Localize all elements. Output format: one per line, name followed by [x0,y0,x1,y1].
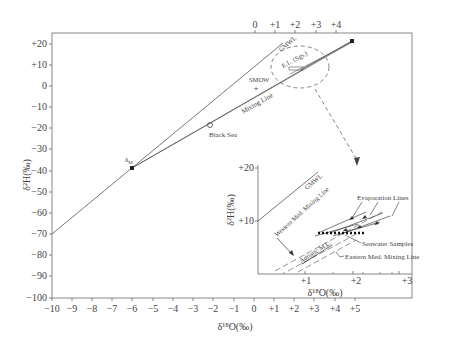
y-tick: −40 [31,165,47,176]
black-sea-label: Black Sea [209,131,238,139]
x-tick: 0 [252,303,257,314]
x-tick-labels: −10 −9 −8 −7 −6 −5 −4 −3 −2 −1 0 +1 +2 +… [44,303,360,314]
y-tick: +10 [31,59,47,70]
x-tick: −1 [229,303,240,314]
x-tick: +5 [350,303,361,314]
x-tick: +4 [330,303,341,314]
adriatic-label: Adriatic M.L. [298,239,332,264]
y-tick: −100 [26,292,47,303]
seawater-samples-label: Seawater Samples [362,240,413,248]
y-tick: −70 [31,228,47,239]
x-tick: −9 [67,303,78,314]
top-tick: +2 [290,19,301,30]
y-tick: −50 [31,186,47,197]
mixing-line-upper [132,42,352,168]
isotope-chart: +20 +10 0 −10 −20 −30 −40 −50 −60 −70 −8… [0,0,455,348]
pointer-arrowhead [289,250,294,256]
x-tick: −7 [107,303,118,314]
zoom-arrow-head [354,157,360,166]
top-tick-labels: 0 +1 +2 +3 +4 [253,19,342,30]
x-tick: −6 [127,303,138,314]
x-tick: −2 [208,303,219,314]
x-tick: +2 [289,303,300,314]
eastern-med-pointer [336,252,344,257]
y-tick: +20 [31,38,47,49]
gmwl-line [52,43,283,234]
inset-y-tick: +10 [238,215,254,226]
top-tick: 0 [253,19,258,30]
delta-m-label: δM [125,156,133,165]
top-tick: +4 [331,19,342,30]
x-tick: −3 [188,303,199,314]
inset-x-axis-title: δ¹⁸O(‰) [307,287,342,299]
adriatic-line [288,232,360,271]
x-axis-title: δ¹⁸O(‰) [217,321,252,333]
evaporation-arrows [343,215,379,231]
top-tick: +1 [270,19,281,30]
evap-pointer-2 [370,202,378,215]
evap-pointer-3 [392,202,399,216]
inset-x-tick: +3 [402,275,413,286]
x-tick: −10 [44,303,60,314]
y-axis-title: δ²H(‰) [21,159,33,191]
smow-label: SMOW [249,76,270,83]
x-tick: −5 [148,303,159,314]
inset-x-tick: +1 [301,275,312,286]
western-med-label: Western Med. Mixing Line [273,185,330,238]
y-tick: −90 [31,270,47,281]
x-tick: −4 [168,303,179,314]
x-tick: +1 [269,303,280,314]
inset-x-tick: +2 [351,275,362,286]
x-tick: −8 [87,303,98,314]
y-tick: −10 [31,101,47,112]
zoom-arrow-line [315,89,357,160]
eastern-med-label: Eastern Med. Mixing Line [345,253,419,261]
western-med-pointer [277,238,292,254]
top-tick: +3 [311,19,322,30]
y-tick: −30 [31,143,47,154]
inset-y-tick: +20 [238,162,254,173]
evaporation-lines-label: Evaporation Lines [357,194,409,202]
smow-marker: + [253,83,258,93]
y-tick: −60 [31,207,47,218]
y-tick: −20 [31,122,47,133]
med-endpoint-marker [350,39,354,43]
x-tick: +3 [309,303,320,314]
delta-m-marker [130,166,134,170]
y-tick: 0 [42,80,47,91]
inset-y-axis-title: δ²H(‰) [225,194,237,226]
inset-plot: +20 +10 δ²H(‰) +1 +2 +3 δ¹⁸O(‰) GMWL Wes… [225,162,419,299]
gmwl-label: GMWL [277,34,297,53]
y-tick: −80 [31,249,47,260]
